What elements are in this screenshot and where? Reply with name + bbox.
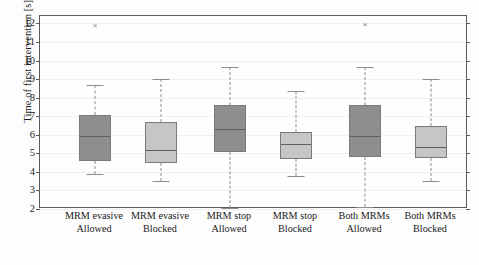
- median-line: [281, 144, 311, 145]
- whisker-cap-upper: [87, 85, 104, 86]
- whisker-cap-upper: [423, 79, 440, 80]
- y-tick-label: 6: [30, 130, 35, 141]
- whisker-upper: [296, 91, 297, 132]
- x-label-line-1: Both MRMs: [404, 210, 455, 221]
- whisker-cap-upper: [357, 67, 374, 68]
- box-iqr: [214, 105, 246, 152]
- figure-boxplot-time-of-first-intervention: Time of first intervention [s] 234567891…: [0, 0, 479, 265]
- y-tick-label: 11: [25, 37, 35, 48]
- y-tick-mark: [36, 23, 40, 24]
- whisker-lower: [431, 158, 432, 181]
- boxplot-6: [415, 16, 447, 207]
- boxplot-1: ×: [79, 16, 111, 207]
- y-tick-mark-right: [466, 98, 470, 99]
- x-label-line-2: Blocked: [386, 223, 474, 236]
- box-iqr: [349, 105, 381, 157]
- y-tick-label: 12: [25, 18, 36, 29]
- boxplot-2: [145, 16, 177, 207]
- y-tick-mark-right: [466, 135, 470, 136]
- y-tick-mark-right: [466, 42, 470, 43]
- x-label-line-1: MRM stop: [273, 210, 317, 221]
- x-label-line-1: MRM evasive: [65, 210, 123, 221]
- outlier-marker: ×: [362, 21, 369, 28]
- box-iqr: [79, 115, 111, 161]
- median-line: [215, 129, 245, 130]
- outlier-marker: ×: [92, 22, 99, 29]
- y-tick-mark: [36, 190, 40, 191]
- x-label-line-1: MRM evasive: [131, 210, 189, 221]
- y-tick-mark-right: [466, 79, 470, 80]
- y-tick-mark-right: [466, 23, 470, 24]
- whisker-lower: [95, 161, 96, 174]
- whisker-upper: [161, 79, 162, 122]
- x-axis-label-6: Both MRMsBlocked: [386, 210, 474, 235]
- y-tick-mark: [36, 79, 40, 80]
- y-tick-mark-right: [466, 153, 470, 154]
- whisker-upper: [365, 67, 366, 105]
- y-tick-label: 8: [30, 92, 35, 103]
- y-tick-label: 4: [30, 167, 35, 178]
- y-tick-label: 3: [30, 185, 35, 196]
- median-line: [350, 136, 380, 137]
- y-tick-mark: [36, 61, 40, 62]
- whisker-lower: [161, 163, 162, 182]
- whisker-lower: [230, 152, 231, 207]
- x-label-line-1: Both MRMs: [338, 210, 389, 221]
- y-tick-mark: [36, 42, 40, 43]
- median-line: [416, 147, 446, 148]
- y-tick-mark-right: [466, 172, 470, 173]
- box-iqr: [145, 122, 177, 162]
- box-iqr: [280, 132, 312, 158]
- whisker-cap-lower: [222, 208, 239, 209]
- boxplot-5: ×: [349, 16, 381, 207]
- y-tick-label: 7: [30, 111, 35, 122]
- whisker-lower: [296, 159, 297, 177]
- y-tick-mark: [36, 172, 40, 173]
- whisker-cap-lower: [288, 176, 305, 177]
- x-axis-labels: MRM evasiveAllowedMRM evasiveBlockedMRM …: [39, 210, 467, 244]
- whisker-cap-lower: [153, 181, 170, 182]
- y-tick-mark: [36, 153, 40, 154]
- whisker-cap-lower: [357, 207, 374, 208]
- boxplot-3: [214, 16, 246, 207]
- y-tick-mark: [36, 98, 40, 99]
- y-tick-label: 9: [30, 74, 35, 85]
- y-tick-label: 10: [25, 55, 36, 66]
- y-tick-mark: [36, 116, 40, 117]
- median-line: [146, 150, 176, 151]
- y-tick-label: 2: [30, 204, 35, 215]
- whisker-cap-upper: [222, 67, 239, 68]
- y-tick-mark-right: [466, 61, 470, 62]
- whisker-cap-upper: [153, 79, 170, 80]
- x-label-line-1: MRM stop: [207, 210, 251, 221]
- y-tick-label: 5: [30, 148, 35, 159]
- y-tick-mark-right: [466, 190, 470, 191]
- whisker-cap-lower: [87, 174, 104, 175]
- whisker-upper: [230, 67, 231, 105]
- whisker-upper: [95, 85, 96, 114]
- boxplot-4: [280, 16, 312, 207]
- box-iqr: [415, 126, 447, 158]
- y-tick-mark-right: [466, 116, 470, 117]
- whisker-upper: [431, 79, 432, 126]
- y-tick-mark: [36, 135, 40, 136]
- whisker-cap-upper: [288, 91, 305, 92]
- plot-area: 23456789101112××: [39, 15, 467, 208]
- median-line: [80, 136, 110, 137]
- whisker-cap-lower: [423, 181, 440, 182]
- whisker-lower: [365, 157, 366, 207]
